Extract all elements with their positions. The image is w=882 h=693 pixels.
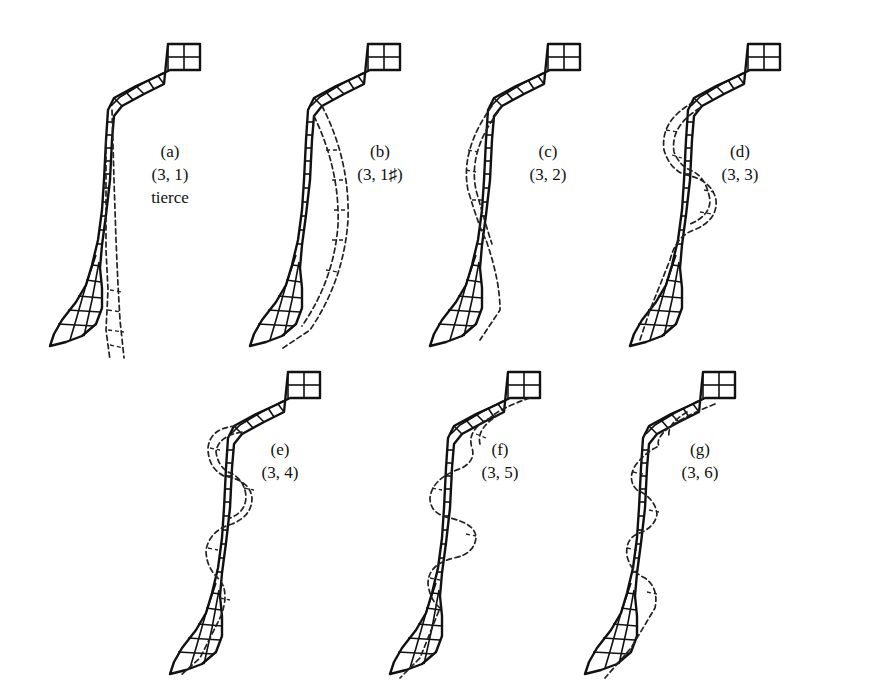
panel-label-c: (c) (3, 2) [508,140,588,186]
mesh-diagram-e [160,368,340,688]
panel-e: (e) (3, 4) [160,368,340,688]
mode-number: (3, 6) [660,461,740,484]
panel-label-e: (e) (3, 4) [240,438,320,484]
panel-letter: (b) [340,140,420,163]
panel-c: (c) (3, 2) [420,40,600,360]
panel-b: (b) (3, 1♯) [240,40,420,360]
mesh-diagram-f [380,368,560,688]
mode-number: (3, 4) [240,461,320,484]
mode-number: (3, 1♯) [340,163,420,186]
mode-number: (3, 5) [460,461,540,484]
panel-letter: (f) [460,438,540,461]
panel-letter: (d) [700,140,780,163]
panel-a: (a) (3, 1) tierce [40,40,220,360]
panel-label-d: (d) (3, 3) [700,140,780,186]
mode-number: (3, 1) [130,163,210,186]
mode-shapes-figure: (a) (3, 1) tierce (b) (3, 1♯) (c) (3, 2) [0,0,882,693]
mode-number: (3, 3) [700,163,780,186]
panel-letter: (e) [240,438,320,461]
panel-letter: (g) [660,438,740,461]
panel-label-a: (a) (3, 1) tierce [130,140,210,209]
panel-d: (d) (3, 3) [620,40,800,360]
mesh-diagram-b [240,40,420,360]
panel-letter: (c) [508,140,588,163]
mesh-diagram-c [420,40,600,360]
panel-label-g: (g) (3, 6) [660,438,740,484]
panel-g: (g) (3, 6) [575,368,755,688]
panel-label-b: (b) (3, 1♯) [340,140,420,186]
mesh-diagram-g [575,368,755,688]
panel-letter: (a) [130,140,210,163]
panel-f: (f) (3, 5) [380,368,560,688]
mode-note: tierce [130,186,210,209]
mesh-diagram-d [620,40,800,360]
panel-label-f: (f) (3, 5) [460,438,540,484]
mode-number: (3, 2) [508,163,588,186]
